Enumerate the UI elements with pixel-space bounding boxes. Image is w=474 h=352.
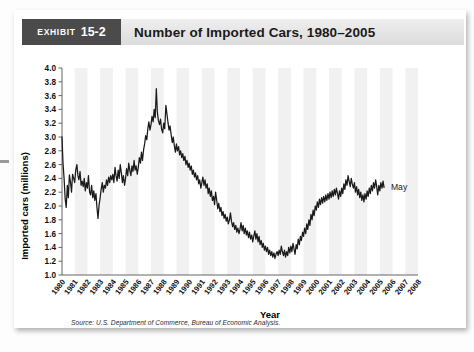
y-tick-label: 3.8 [45,78,57,87]
annotation-label: May [391,182,408,192]
y-tick-label: 2.2 [45,188,57,197]
x-axis-tick-labels: 1980198119821983198419851986198719881989… [50,277,424,296]
exhibit-title: Number of Imported Cars, 1980–2005 [134,19,375,45]
source-prefix: Source: [71,319,94,326]
exhibit-badge-number: 15-2 [81,25,106,39]
source-text: U.S. Department of Commerce, Bureau of E… [96,319,280,326]
exhibit-badge-word: Exhibit [37,27,75,37]
page-edge-artifact [0,160,9,163]
exhibit-header: Exhibit 15-2 Number of Imported Cars, 19… [22,19,464,45]
y-tick-label: 1.2 [45,257,57,266]
chart-annotations: May [391,182,408,192]
exhibit-badge: Exhibit 15-2 [22,19,121,45]
y-tick-label: 2.8 [45,147,57,156]
exhibit-card: Exhibit 15-2 Number of Imported Cars, 19… [14,10,466,328]
y-tick-label: 1.8 [45,216,57,225]
y-axis-ticks [59,68,63,275]
y-tick-label: 3.0 [45,133,57,142]
y-axis-title: Imported cars (millions) [19,152,30,260]
chart-container: 1.01.21.41.61.82.02.22.42.62.83.03.23.43… [14,46,466,328]
y-tick-label: 3.2 [45,119,57,128]
y-tick-label: 3.4 [45,105,57,114]
line-chart: 1.01.21.41.61.82.02.22.42.62.83.03.23.43… [14,46,466,328]
page-root: Exhibit 15-2 Number of Imported Cars, 19… [0,0,474,352]
y-tick-label: 2.4 [45,174,57,183]
y-tick-label: 4.0 [45,64,57,73]
x-tick-label: 2008 [406,278,424,297]
y-tick-label: 1.6 [45,230,57,239]
y-tick-label: 2.6 [45,161,57,170]
y-tick-label: 3.6 [45,92,57,101]
y-tick-label: 1.4 [45,243,57,252]
y-axis-tick-labels: 1.01.21.41.61.82.02.22.42.62.83.03.23.43… [45,64,57,280]
y-tick-label: 2.0 [45,202,57,211]
source-note: Source: U.S. Department of Commerce, Bur… [71,319,280,326]
y-tick-label: 1.0 [45,271,57,280]
